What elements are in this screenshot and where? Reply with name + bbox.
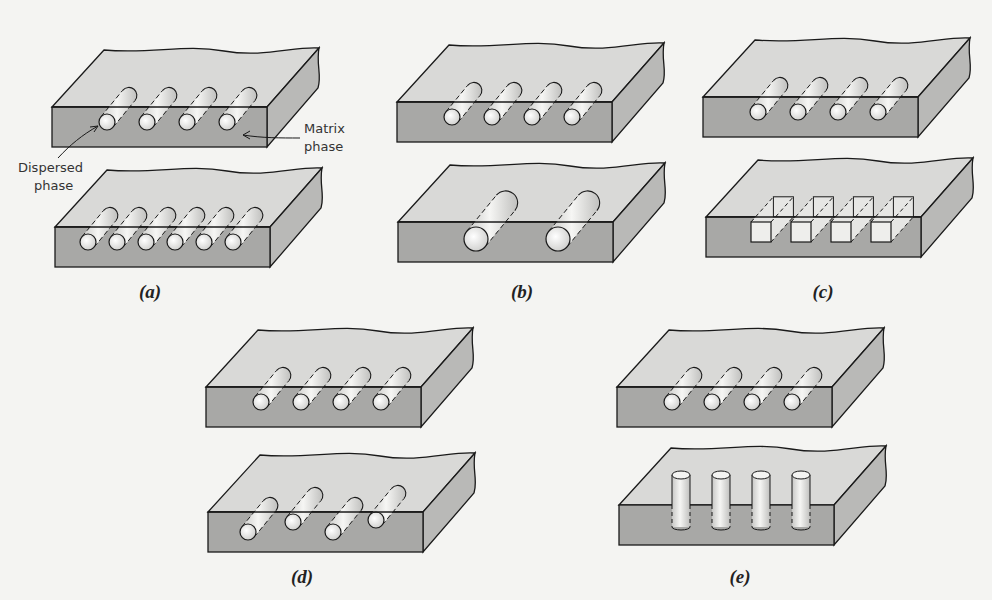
panel-caption-b: (b) — [511, 281, 533, 303]
matrix-phase-label-2: phase — [304, 139, 343, 154]
fiber — [792, 471, 810, 530]
composite-slab — [617, 328, 884, 427]
composite-slab — [703, 38, 970, 137]
matrix-phase-label: Matrix — [304, 121, 345, 136]
composite-slab — [52, 48, 319, 147]
composite-slab — [208, 453, 475, 552]
dispersed-phase-label: Dispersed — [18, 160, 83, 175]
fiber — [672, 471, 690, 530]
composite-slab — [397, 43, 664, 142]
composite-slab — [55, 168, 322, 267]
composite-slab — [619, 446, 886, 545]
panel-caption-d: (d) — [291, 566, 313, 588]
dispersed-phase-label-2: phase — [34, 178, 73, 193]
fiber — [752, 471, 770, 530]
panel-caption-c: (c) — [812, 281, 833, 303]
composite-slab — [206, 328, 473, 427]
panel-caption-e: (e) — [729, 566, 750, 588]
composite-slab — [398, 163, 665, 262]
composite-slab — [706, 158, 973, 257]
panel-caption-a: (a) — [139, 281, 161, 303]
fiber — [712, 471, 730, 530]
composite-dispersed-phase-diagram: (a)(b)(c)(d)(e)MatrixphaseDispersedphase — [0, 0, 992, 600]
